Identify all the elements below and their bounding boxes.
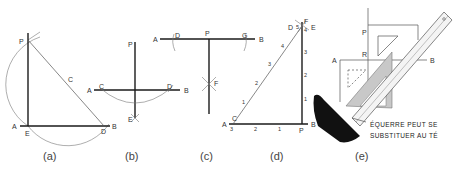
figure-c: A D P G B F (c) bbox=[153, 30, 264, 162]
label-p: P bbox=[19, 38, 24, 45]
label-a: A bbox=[12, 123, 17, 130]
note-line-2: SUBSTITUER AU TÉ bbox=[370, 131, 438, 139]
figure-e: P R A B ÉQUERRE PEUT SE SUBSTITUER AU TÉ… bbox=[314, 8, 453, 162]
caption-a: (a) bbox=[43, 150, 56, 162]
label-f: F bbox=[214, 80, 218, 87]
base-tick-2: 2 bbox=[254, 126, 257, 132]
caption-e: (e) bbox=[355, 150, 368, 162]
hyp-tick-5: 5 bbox=[296, 24, 299, 30]
label-c: C bbox=[68, 76, 73, 83]
label-a: A bbox=[87, 87, 92, 94]
label-p: P bbox=[205, 30, 210, 37]
triangle-icon bbox=[378, 36, 398, 56]
label-e: E bbox=[311, 24, 316, 31]
vert-tick-2: 2 bbox=[304, 72, 307, 78]
label-b: B bbox=[259, 36, 264, 43]
label-b: B bbox=[112, 123, 117, 130]
label-c: C bbox=[99, 83, 104, 90]
label-d: D bbox=[167, 83, 172, 90]
label-d: D bbox=[288, 24, 293, 31]
base-tick-3: 3 bbox=[230, 126, 233, 132]
perpendicular-construction-diagram: P C A E D B (a) P A C D B E (b) A D P G … bbox=[0, 0, 459, 169]
hyp-tick-4: 4 bbox=[281, 43, 284, 49]
label-d: D bbox=[175, 32, 180, 39]
vert-tick-3: 3 bbox=[304, 49, 307, 55]
label-p: P bbox=[362, 29, 367, 36]
caption-c: (c) bbox=[200, 150, 213, 162]
label-p: P bbox=[128, 41, 133, 48]
vert-tick-1: 1 bbox=[304, 96, 307, 102]
label-g: G bbox=[242, 32, 247, 39]
label-a: A bbox=[332, 57, 337, 64]
hyp-tick-1: 1 bbox=[242, 99, 245, 105]
semicircle-arc bbox=[6, 37, 109, 146]
label-d: D bbox=[101, 128, 106, 135]
figure-a: P C A E D B (a) bbox=[6, 32, 117, 162]
caption-d: (d) bbox=[270, 150, 283, 162]
diameter-line bbox=[28, 40, 104, 126]
label-b: B bbox=[311, 121, 316, 128]
label-f: F bbox=[304, 18, 308, 25]
hypotenuse bbox=[233, 26, 302, 124]
figure-b: P A C D B E (b) bbox=[87, 41, 189, 162]
vert-tick-4: 4 bbox=[304, 27, 307, 33]
label-b: B bbox=[430, 57, 435, 64]
label-a: A bbox=[222, 121, 227, 128]
label-r: R bbox=[362, 51, 367, 58]
hyp-tick-3: 3 bbox=[268, 61, 271, 67]
label-b: B bbox=[184, 87, 189, 94]
label-c: C bbox=[232, 115, 237, 122]
label-a: A bbox=[153, 36, 158, 43]
base-tick-1: 1 bbox=[278, 126, 281, 132]
label-e: E bbox=[25, 130, 30, 137]
label-e: E bbox=[128, 116, 133, 123]
note-line-1: ÉQUERRE PEUT SE bbox=[370, 120, 438, 129]
label-p: P bbox=[299, 127, 304, 134]
hyp-tick-2: 2 bbox=[255, 80, 258, 86]
caption-b: (b) bbox=[125, 150, 138, 162]
